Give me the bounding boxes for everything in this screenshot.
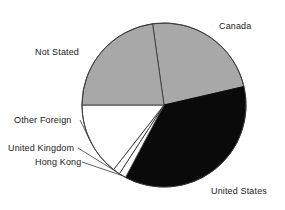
pie-label-not-stated: Not Stated xyxy=(35,47,79,58)
pie-chart-figure: Canada Not Stated Other Foreign United K… xyxy=(0,0,285,210)
pie-label-canada: Canada xyxy=(219,21,251,32)
pie-label-united-states: United States xyxy=(211,186,267,197)
pie-label-other-foreign: Other Foreign xyxy=(14,115,71,126)
pie-slice-group xyxy=(82,23,246,187)
pie-label-united-kingdom: United Kingdom xyxy=(8,143,74,154)
pie-slice-not-stated xyxy=(82,24,164,105)
pie-label-hong-kong: Hong Kong xyxy=(35,157,81,168)
